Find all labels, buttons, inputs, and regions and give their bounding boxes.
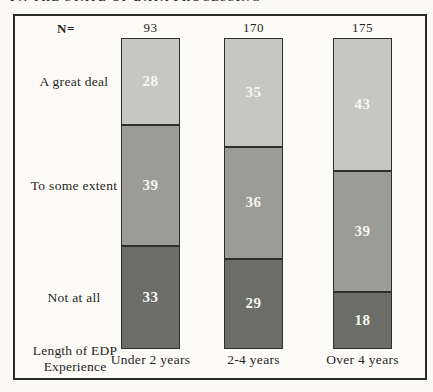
segment-value-label: 28	[143, 73, 159, 90]
n-value: 93	[121, 20, 180, 35]
segment-value-label: 39	[143, 177, 159, 194]
bar-segment-not-at-all: 29	[225, 258, 282, 348]
segment-value-label: 18	[355, 312, 371, 329]
bar-segment-not-at-all: 18	[334, 291, 391, 348]
bar-segment-to-some-extent: 39	[334, 170, 391, 291]
x-axis-title: Length of EDP Experience	[21, 343, 129, 375]
bar-segment-a-great-deal: 28	[122, 39, 179, 124]
scanned-chart-page: IV. THE STATE OF DATA PROCESSING N= 9328…	[0, 0, 433, 392]
segment-value-label: 39	[355, 223, 371, 240]
category-label-2-4-years: 2-4 years	[194, 352, 314, 368]
n-value: 175	[333, 20, 392, 35]
segment-value-label: 35	[246, 84, 262, 101]
bar-segment-to-some-extent: 36	[225, 146, 282, 258]
cropped-top-caption-text: IV. THE STATE OF DATA PROCESSING	[10, 0, 310, 3]
segment-value-label: 33	[143, 289, 159, 306]
n-equals-label: N=	[57, 21, 75, 37]
series-label-a-great-deal: A great deal	[23, 74, 125, 90]
bar-column-2-4-years: 353629	[224, 38, 283, 349]
cropped-top-caption: IV. THE STATE OF DATA PROCESSING	[10, 0, 310, 6]
chart-frame: N= 93283933Under 2 years1703536292-4 yea…	[13, 14, 427, 380]
series-label-to-some-extent: To some extent	[23, 178, 125, 194]
bar-segment-not-at-all: 33	[122, 245, 179, 348]
bar-segment-a-great-deal: 35	[225, 39, 282, 146]
segment-value-label: 29	[246, 295, 262, 312]
segment-value-label: 36	[246, 194, 262, 211]
bar-column-over-4-years: 433918	[333, 38, 392, 349]
bar-column-under-2-years: 283933	[121, 38, 180, 349]
bar-segment-a-great-deal: 43	[334, 39, 391, 170]
bar-segment-to-some-extent: 39	[122, 124, 179, 245]
segment-value-label: 43	[355, 96, 371, 113]
category-label-over-4-years: Over 4 years	[303, 352, 423, 368]
series-label-not-at-all: Not at all	[23, 290, 125, 306]
n-value: 170	[224, 20, 283, 35]
